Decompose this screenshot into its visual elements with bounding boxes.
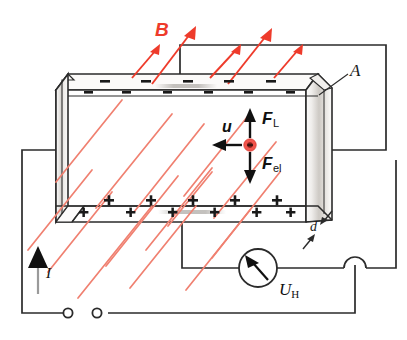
lorentz-force-subscript: L xyxy=(273,117,279,129)
minus-sign xyxy=(122,91,131,94)
terminal-left[interactable] xyxy=(63,308,72,317)
hall-effect-diagram xyxy=(0,0,407,340)
minus-sign xyxy=(163,91,172,94)
voltmeter[interactable] xyxy=(239,249,277,287)
minus-sign xyxy=(84,91,93,94)
electric-force-subscript: el xyxy=(273,162,282,174)
diagram-canvas: B A u FL Fel d I UH xyxy=(0,0,407,340)
drift-velocity-label: u xyxy=(222,119,232,135)
hall-voltage-subscript: H xyxy=(291,288,299,300)
minus-sign xyxy=(204,91,213,94)
terminals[interactable] xyxy=(63,308,101,317)
wire-right-arm-bottom xyxy=(108,265,355,313)
thickness-label: d xyxy=(310,220,317,234)
current-arrow xyxy=(28,246,48,294)
field-arrow xyxy=(132,44,160,78)
thickness-arrow-lower xyxy=(303,234,315,249)
electric-force-symbol: F xyxy=(262,154,272,173)
minus-sign xyxy=(141,80,151,83)
electron xyxy=(244,139,256,151)
area-label: A xyxy=(350,62,360,79)
lorentz-force-label: FL xyxy=(262,110,279,127)
magnetic-field-label: B xyxy=(155,20,169,39)
minus-sign xyxy=(244,91,253,94)
wire-voltmeter-left xyxy=(182,222,241,268)
minus-sign xyxy=(183,80,193,83)
terminal-right[interactable] xyxy=(92,308,101,317)
electric-force-label: Fel xyxy=(262,155,281,172)
minus-sign xyxy=(286,91,295,94)
field-arrow xyxy=(274,44,303,78)
lorentz-force-symbol: F xyxy=(262,109,272,128)
hall-voltage-label: UH xyxy=(279,281,299,298)
current-label: I xyxy=(46,266,51,281)
minus-sign xyxy=(100,80,110,83)
hall-voltage-symbol: U xyxy=(279,280,291,299)
smudge-top xyxy=(155,84,217,88)
minus-sign xyxy=(224,80,234,83)
wire-voltmeter-to-right-rail xyxy=(366,160,396,268)
minus-sign xyxy=(266,80,276,83)
